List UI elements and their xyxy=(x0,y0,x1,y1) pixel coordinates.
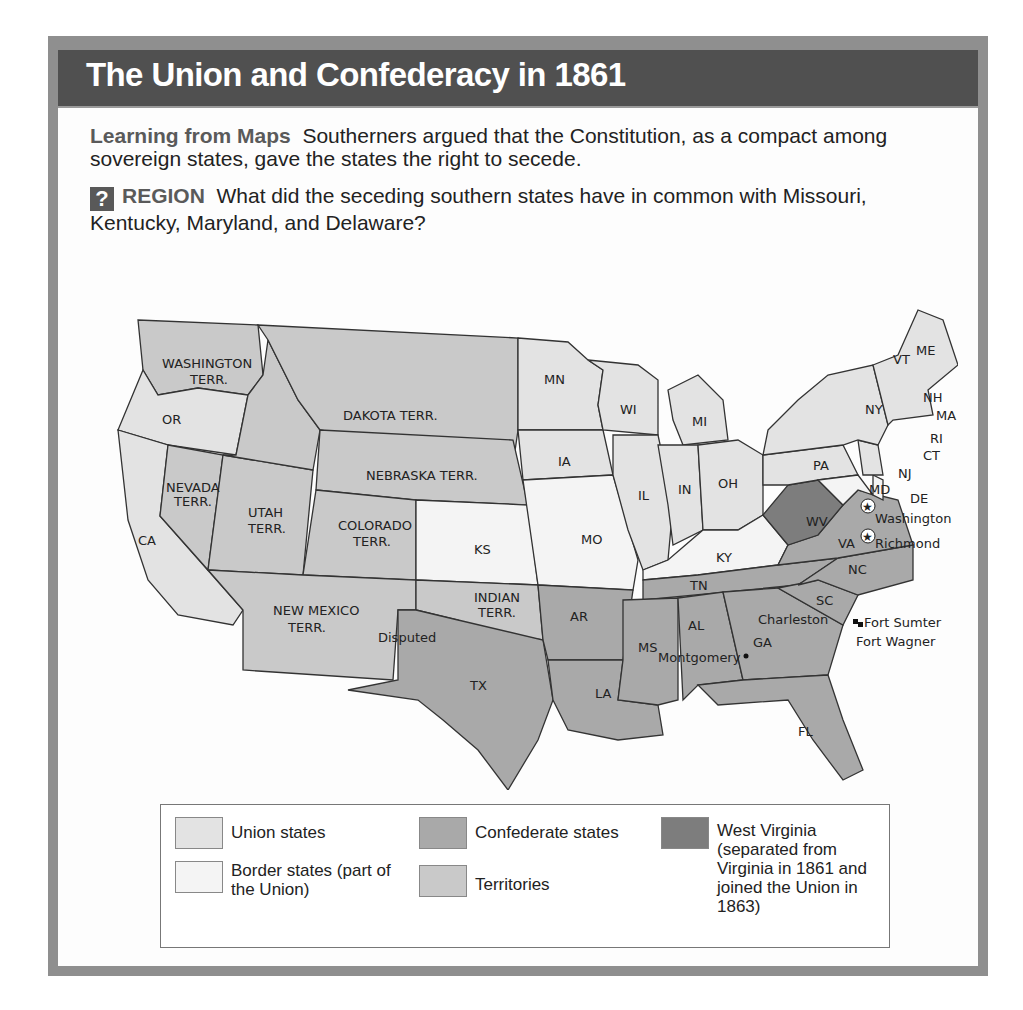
label-indian-terr: INDIAN xyxy=(474,590,520,605)
label-pa: PA xyxy=(813,458,829,473)
label-utah-terr: UTAH xyxy=(248,505,283,520)
label-disputed: Disputed xyxy=(378,630,436,645)
label-md: MD xyxy=(869,482,890,497)
label-sc: SC xyxy=(816,593,833,608)
swatch-territories xyxy=(419,865,467,897)
swatch-union xyxy=(175,817,223,849)
label-oh: OH xyxy=(718,476,738,491)
label-ca: CA xyxy=(138,533,156,548)
label-ct: CT xyxy=(923,448,940,463)
swatch-confederate xyxy=(419,817,467,849)
city-fort-sumter: Fort Sumter xyxy=(864,615,942,630)
question-icon: ? xyxy=(90,187,114,211)
map-frame: The Union and Confederacy in 1861 Learni… xyxy=(48,36,988,976)
city-richmond: Richmond xyxy=(875,536,940,551)
label-nevada-terr: NEVADA xyxy=(166,480,220,495)
label-mi: MI xyxy=(692,414,707,429)
title-bar: The Union and Confederacy in 1861 xyxy=(58,50,978,108)
label-or: OR xyxy=(162,412,181,427)
region-fl xyxy=(698,675,863,780)
label-va: VA xyxy=(838,536,855,551)
fort-square-icon xyxy=(858,622,863,627)
label-nc: NC xyxy=(848,562,867,577)
legend-border: Border states (part of the Union) xyxy=(231,861,401,899)
city-montgomery: Montgomery xyxy=(658,650,741,665)
label-utah-terr-2: TERR. xyxy=(247,521,286,536)
question-heading: REGION xyxy=(122,184,205,207)
label-me: ME xyxy=(916,343,935,358)
label-ia: IA xyxy=(558,454,571,469)
label-ms: MS xyxy=(638,640,657,655)
region-nj xyxy=(858,440,883,475)
label-nevada-terr-2: TERR. xyxy=(173,494,212,509)
label-new-mexico-terr: NEW MEXICO xyxy=(273,603,359,618)
label-vt: VT xyxy=(893,352,910,367)
label-ky: KY xyxy=(716,550,732,565)
label-ny: NY xyxy=(865,402,883,417)
capital-star-icon: ★ xyxy=(861,529,875,544)
label-ma: MA xyxy=(936,408,956,423)
swatch-west-virginia xyxy=(661,817,709,849)
label-nebraska-terr: NEBRASKA TERR. xyxy=(366,468,478,483)
caption-heading: Learning from Maps xyxy=(90,124,291,147)
label-indian-terr-2: TERR. xyxy=(477,605,516,620)
label-washington-terr-2: TERR. xyxy=(189,372,228,387)
label-wv: WV xyxy=(806,514,828,529)
label-ga: GA xyxy=(753,635,772,650)
city-dot-icon xyxy=(744,654,749,659)
legend-confederate: Confederate states xyxy=(475,823,619,842)
label-washington-terr: WASHINGTON xyxy=(162,356,252,371)
legend-west-virginia: West Virginia (separated from Virginia i… xyxy=(717,821,887,916)
label-mn: MN xyxy=(544,372,565,387)
svg-text:★: ★ xyxy=(862,530,873,544)
us-map: WASHINGTON TERR. OR CA NEVADA TERR. UTAH… xyxy=(98,280,958,790)
label-ar: AR xyxy=(570,609,588,624)
svg-text:★: ★ xyxy=(862,500,873,514)
label-ri: RI xyxy=(930,431,943,446)
legend: Union states Border states (part of the … xyxy=(160,804,890,948)
label-nh: NH xyxy=(923,390,943,405)
fort-square-icon xyxy=(853,619,858,624)
label-nj: NJ xyxy=(898,466,912,481)
label-dakota-terr: DAKOTA TERR. xyxy=(343,408,438,423)
label-wi: WI xyxy=(620,402,637,417)
swatch-border xyxy=(175,861,223,893)
region-question: ?REGION What did the seceding southern s… xyxy=(90,184,950,234)
label-colorado-terr-2: TERR. xyxy=(352,534,391,549)
label-fl: FL xyxy=(798,724,813,739)
caption: Learning from Maps Southerners argued th… xyxy=(90,124,950,170)
label-tn: TN xyxy=(689,578,708,593)
label-new-mexico-terr-2: TERR. xyxy=(287,620,326,635)
label-la: LA xyxy=(595,686,612,701)
map-panel: The Union and Confederacy in 1861 Learni… xyxy=(58,50,978,966)
legend-union: Union states xyxy=(231,823,326,842)
region-mi xyxy=(668,375,728,445)
label-il: IL xyxy=(638,488,650,503)
label-ks: KS xyxy=(474,542,491,557)
legend-territories: Territories xyxy=(475,875,550,894)
capital-star-icon: ★ xyxy=(861,499,875,514)
question-text: What did the seceding southern states ha… xyxy=(90,184,867,234)
label-mo: MO xyxy=(581,532,602,547)
city-washington: Washington xyxy=(875,511,951,526)
label-al: AL xyxy=(688,618,705,633)
label-de: DE xyxy=(910,491,928,506)
city-fort-wagner: Fort Wagner xyxy=(856,634,936,649)
city-charleston: Charleston xyxy=(758,612,828,627)
map-title: The Union and Confederacy in 1861 xyxy=(86,56,626,94)
label-in: IN xyxy=(678,482,692,497)
label-colorado-terr: COLORADO xyxy=(338,518,412,533)
label-tx: TX xyxy=(469,678,487,693)
